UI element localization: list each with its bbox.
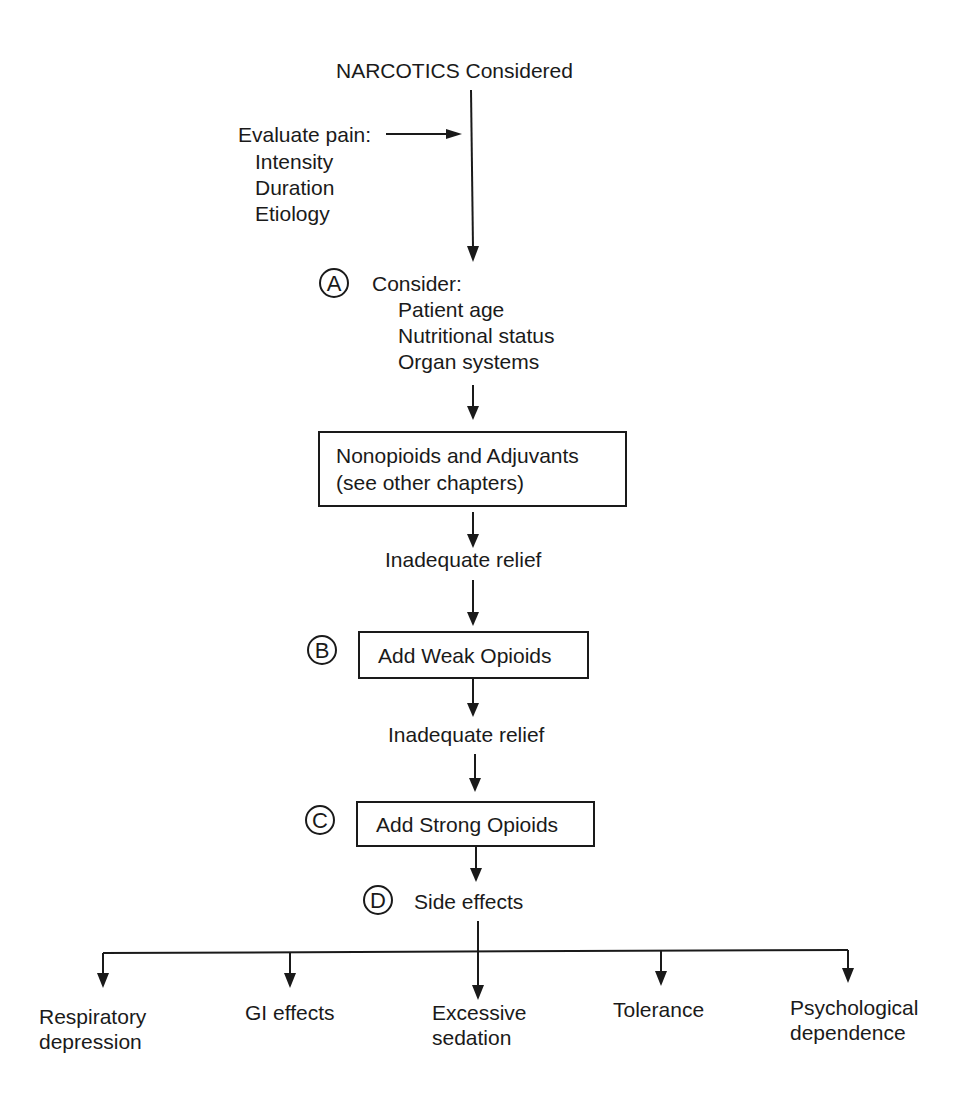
side-effect-line1: Respiratory	[39, 1004, 146, 1029]
side-effect-psychological-dependence: Psychological dependence	[790, 995, 918, 1045]
side-effect-line1: GI effects	[245, 1000, 335, 1025]
step-c-marker: C	[305, 805, 335, 835]
step-c-label: Add Strong Opioids	[376, 812, 558, 837]
diagram-title: NARCOTICS Considered	[336, 58, 573, 83]
weak-opioids-box: Add Weak Opioids	[358, 631, 589, 679]
side-effect-line1: Psychological	[790, 995, 918, 1020]
evaluate-item-duration: Duration	[255, 175, 334, 200]
nonopioids-box: Nonopioids and Adjuvants (see other chap…	[318, 431, 627, 507]
step-a-label: Consider:	[372, 271, 462, 296]
side-effect-line1: Excessive	[432, 1000, 527, 1025]
step-d-marker: D	[363, 885, 393, 915]
strong-opioids-box: Add Strong Opioids	[356, 801, 595, 847]
inadequate-relief-1: Inadequate relief	[385, 547, 541, 572]
step-a-item-nutritional-status: Nutritional status	[398, 323, 554, 348]
side-effect-gi-effects: GI effects	[245, 1000, 335, 1025]
step-a-item-organ-systems: Organ systems	[398, 349, 539, 374]
nonopioids-line2: (see other chapters)	[336, 470, 524, 495]
step-a-item-patient-age: Patient age	[398, 297, 504, 322]
side-effect-respiratory-depression: Respiratory depression	[39, 1004, 146, 1054]
evaluate-item-intensity: Intensity	[255, 149, 333, 174]
side-effect-line1: Tolerance	[613, 997, 704, 1022]
nonopioids-line1: Nonopioids and Adjuvants	[336, 443, 579, 468]
step-b-marker: B	[307, 635, 337, 665]
side-effect-line2: dependence	[790, 1020, 918, 1045]
side-effect-line2: depression	[39, 1029, 146, 1054]
step-b-label: Add Weak Opioids	[378, 643, 552, 668]
inadequate-relief-2: Inadequate relief	[388, 722, 544, 747]
side-effect-tolerance: Tolerance	[613, 997, 704, 1022]
evaluate-pain-label: Evaluate pain:	[238, 122, 371, 147]
step-a-marker: A	[319, 268, 349, 298]
side-effect-line2: sedation	[432, 1025, 527, 1050]
evaluate-item-etiology: Etiology	[255, 201, 330, 226]
side-effect-excessive-sedation: Excessive sedation	[432, 1000, 527, 1050]
step-d-label: Side effects	[414, 889, 523, 914]
